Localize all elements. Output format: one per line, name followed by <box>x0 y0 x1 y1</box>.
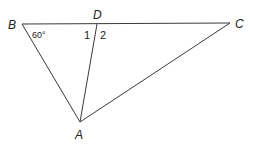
angle-b-measure: 60° <box>32 30 46 40</box>
segment-bc <box>22 23 230 24</box>
vertex-label-a: A <box>74 128 83 142</box>
vertex-label-c: C <box>235 17 244 31</box>
triangle-diagram: B D C A 60° 1 2 <box>0 0 254 145</box>
angle-2-label: 2 <box>100 29 106 41</box>
vertex-label-b: B <box>8 18 16 32</box>
segment-ba <box>22 24 80 122</box>
vertex-label-d: D <box>93 8 102 22</box>
angle-1-label: 1 <box>84 29 90 41</box>
